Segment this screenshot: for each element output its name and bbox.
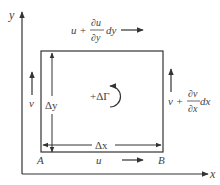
circulation-diagram: y x A B Δy Δx u v u + ∂u ∂y dy v + ∂ bbox=[0, 0, 220, 185]
height-dimension: Δy bbox=[45, 53, 58, 152]
circulation-label: +ΔΓ bbox=[90, 90, 110, 102]
top-velocity: u + ∂u ∂y dy bbox=[71, 17, 143, 43]
right-velocity-tail: dx bbox=[200, 95, 211, 107]
y-axis-label: y bbox=[8, 8, 15, 22]
top-velocity-tail: dy bbox=[106, 24, 117, 36]
top-velocity-numerator: ∂u bbox=[91, 17, 101, 28]
left-velocity: v bbox=[29, 72, 34, 109]
x-axis-label: x bbox=[209, 167, 216, 181]
corner-a-label: A bbox=[36, 154, 44, 166]
width-label: Δx bbox=[95, 139, 108, 151]
top-velocity-base: u + bbox=[71, 24, 87, 36]
left-velocity-label: v bbox=[29, 97, 34, 109]
right-velocity-denominator: ∂x bbox=[188, 103, 198, 114]
right-velocity: v + ∂v ∂x dx bbox=[168, 69, 211, 114]
bottom-velocity-label: u bbox=[96, 154, 102, 166]
right-velocity-numerator: ∂v bbox=[188, 88, 198, 99]
corner-b-label: B bbox=[158, 154, 165, 166]
bottom-velocity: u bbox=[96, 154, 143, 166]
width-dimension: Δx bbox=[43, 139, 161, 151]
height-label: Δy bbox=[45, 99, 58, 111]
circulation-arrow-icon bbox=[110, 86, 121, 107]
right-velocity-base: v + bbox=[168, 95, 183, 107]
top-velocity-denominator: ∂y bbox=[91, 32, 101, 43]
circulation: +ΔΓ bbox=[90, 86, 121, 107]
